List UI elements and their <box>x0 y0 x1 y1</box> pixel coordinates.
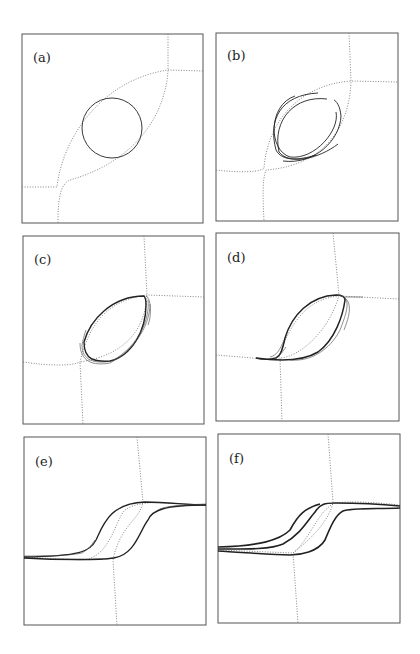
panel-a-nullcline-vertical <box>58 34 168 223</box>
panel-d-label: (d) <box>227 250 245 265</box>
panel-f-trajectory-return <box>218 508 400 555</box>
panel-e-trajectory-3 <box>24 540 95 556</box>
panel-f-label: (f) <box>229 451 244 466</box>
panel-e-nullcline-vertical <box>113 437 143 625</box>
panel-d-orbit-2 <box>338 295 349 330</box>
panel-c-orbit-1 <box>82 300 148 362</box>
panel-a-orbit <box>82 98 142 158</box>
panel-a-label: (a) <box>33 50 51 65</box>
panel-c-nullcline-vertical <box>80 236 147 424</box>
panel-b-orbit-2 <box>278 99 338 160</box>
panel-a-nullcline-horizontal <box>22 70 203 187</box>
panel-e-label: (e) <box>35 454 53 469</box>
panel-e: (e) <box>24 437 206 625</box>
panel-d: (d) <box>216 233 399 421</box>
panel-c-nullcline-horizontal <box>23 295 204 365</box>
panel-d-orbit-1 <box>290 295 347 360</box>
panel-b: (b) <box>216 33 398 221</box>
panel-b-label: (b) <box>227 48 245 63</box>
panel-f-frame <box>218 434 400 623</box>
figure: (a) (b) (c) (d) <box>0 0 420 654</box>
panel-a: (a) <box>22 34 203 223</box>
panel-c-label: (c) <box>34 252 51 267</box>
panel-f-trajectory-main <box>218 503 400 549</box>
panel-b-orbit-3 <box>274 96 336 157</box>
panel-c: (c) <box>23 236 204 424</box>
panel-f: (f) <box>218 434 400 623</box>
panel-f-nullcline-vertical <box>293 434 333 623</box>
